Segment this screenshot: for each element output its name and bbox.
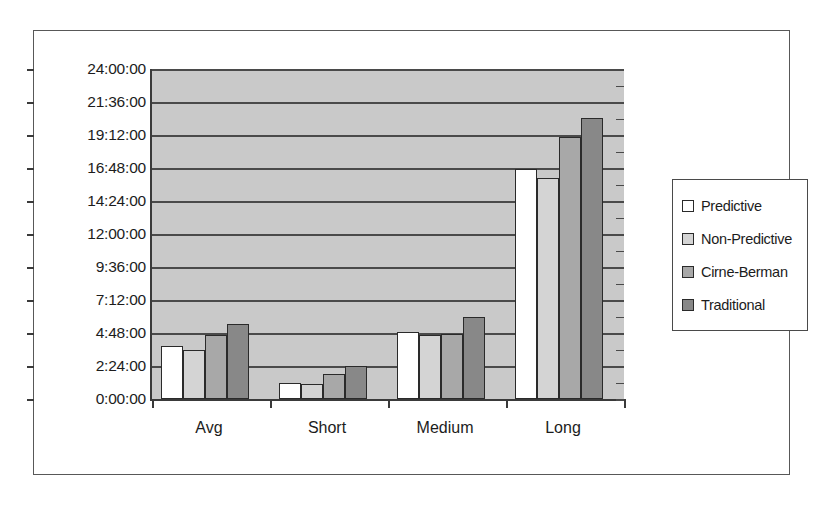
y-axis-minor-tick	[616, 86, 624, 88]
legend-item[interactable]: Traditional	[682, 288, 799, 321]
y-axis-tick	[27, 234, 34, 236]
plot-area	[150, 69, 624, 401]
y-axis-minor-tick	[616, 102, 624, 104]
y-axis-minor-tick	[616, 399, 624, 401]
y-axis-minor-tick	[616, 234, 624, 236]
y-axis-tick-label: 4:48:00	[34, 324, 146, 342]
y-axis-tick-label: 16:48:00	[34, 159, 146, 177]
chart-legend: PredictiveNon-PredictiveCirne-BermanTrad…	[672, 179, 808, 331]
y-axis-minor-tick	[616, 135, 624, 137]
x-axis-tick	[152, 399, 154, 408]
bar[interactable]	[581, 118, 603, 399]
y-axis-tick	[27, 102, 34, 104]
x-axis-category-label: Avg	[195, 419, 222, 437]
x-axis-category-label: Long	[545, 419, 581, 437]
bar[interactable]	[227, 324, 249, 399]
y-axis-minor-tick	[616, 333, 624, 335]
bar-group	[161, 69, 249, 399]
y-axis-minor-tick	[616, 383, 624, 385]
y-axis-minor-tick	[616, 317, 624, 319]
y-axis-tick	[27, 366, 34, 368]
y-axis-minor-tick	[616, 366, 624, 368]
legend-swatch-icon	[682, 299, 694, 311]
y-axis-minor-tick	[616, 267, 624, 269]
legend-item[interactable]: Cirne-Berman	[682, 255, 799, 288]
y-axis-tick-label: 24:00:00	[34, 60, 146, 78]
bar-group	[397, 69, 485, 399]
y-axis-tick	[27, 333, 34, 335]
y-axis-tick	[27, 135, 34, 137]
x-axis-category-label: Medium	[417, 419, 474, 437]
y-axis-tick-label: 0:00:00	[34, 390, 146, 408]
y-axis-tick-label: 2:24:00	[34, 357, 146, 375]
legend-swatch-icon	[682, 200, 694, 212]
y-axis-tick-label: 9:36:00	[34, 258, 146, 276]
x-axis-tick	[270, 399, 272, 408]
y-axis-minor-tick	[616, 251, 624, 253]
legend-item-label: Predictive	[701, 198, 762, 214]
legend-item[interactable]: Non-Predictive	[682, 222, 799, 255]
x-axis-category-label: Short	[308, 419, 346, 437]
legend-item-label: Traditional	[701, 297, 765, 313]
y-axis-minor-tick	[616, 284, 624, 286]
y-axis-tick-label: 21:36:00	[34, 93, 146, 111]
y-axis: 0:00:002:24:004:48:007:12:009:36:0012:00…	[34, 88, 146, 428]
x-axis-tick	[388, 399, 390, 408]
bar[interactable]	[279, 383, 301, 399]
y-axis-minor-tick	[616, 168, 624, 170]
y-axis-tick	[27, 267, 34, 269]
y-axis-minor-tick	[616, 300, 624, 302]
y-axis-tick-label: 14:24:00	[34, 192, 146, 210]
bar[interactable]	[463, 317, 485, 400]
y-axis-tick	[27, 168, 34, 170]
bar[interactable]	[205, 335, 227, 399]
y-axis-minor-tick	[616, 201, 624, 203]
x-axis-tick	[506, 399, 508, 408]
bar[interactable]	[419, 335, 441, 399]
bar[interactable]	[441, 334, 463, 399]
bar[interactable]	[345, 366, 367, 399]
bar[interactable]	[537, 178, 559, 399]
bar[interactable]	[301, 384, 323, 399]
legend-item[interactable]: Predictive	[682, 189, 799, 222]
y-axis-minor-tick	[616, 69, 624, 71]
y-axis-minor-tick	[616, 119, 624, 121]
legend-swatch-icon	[682, 266, 694, 278]
y-axis-minor-tick	[616, 218, 624, 220]
y-axis-tick	[27, 201, 34, 203]
bar[interactable]	[183, 350, 205, 400]
bar[interactable]	[515, 169, 537, 399]
y-axis-minor-tick	[616, 350, 624, 352]
y-axis-tick	[27, 69, 34, 71]
bar[interactable]	[397, 332, 419, 399]
chart-frame: 0:00:002:24:004:48:007:12:009:36:0012:00…	[33, 30, 790, 475]
y-axis-tick-label: 7:12:00	[34, 291, 146, 309]
bar-group	[279, 69, 367, 399]
y-axis-tick-label: 12:00:00	[34, 225, 146, 243]
bar-group	[515, 69, 603, 399]
bar[interactable]	[161, 346, 183, 399]
y-axis-tick-label: 19:12:00	[34, 126, 146, 144]
y-axis-tick	[27, 300, 34, 302]
y-axis-tick	[27, 399, 34, 401]
y-axis-minor-tick	[616, 185, 624, 187]
bar[interactable]	[559, 137, 581, 399]
legend-item-label: Cirne-Berman	[701, 264, 788, 280]
legend-item-label: Non-Predictive	[701, 231, 792, 247]
legend-swatch-icon	[682, 233, 694, 245]
y-axis-minor-tick	[616, 152, 624, 154]
bar[interactable]	[323, 374, 345, 399]
x-axis-tick	[624, 399, 626, 408]
